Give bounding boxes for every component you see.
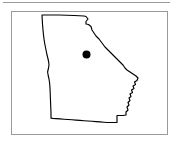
location-marker-dot: [83, 51, 91, 59]
horizontal-rule: [3, 2, 170, 3]
map-panel: [11, 11, 168, 135]
state-map-svg: [12, 12, 169, 136]
figure-root: Georgia: [0, 0, 174, 146]
georgia-state-outline: [42, 15, 138, 123]
